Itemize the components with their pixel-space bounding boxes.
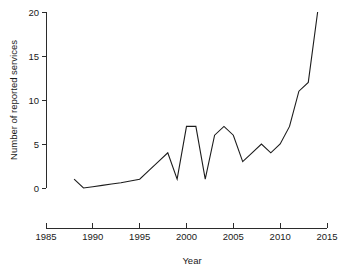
y-axis-tick-label: 15 [28,51,39,62]
line-chart-plot: 05101520 1985199019952000200520102015 Ye… [0,0,349,269]
x-axis-tick-label: 1990 [82,231,103,242]
x-axis-tick-label: 2010 [270,231,291,242]
y-axis-title: Number of reported services [8,40,19,160]
x-axis-tick-label: 2015 [316,231,337,242]
data-series-group [74,12,318,188]
x-axis: 1985199019952000200520102015 [35,223,337,242]
chart-container: 05101520 1985199019952000200520102015 Ye… [0,0,349,269]
x-axis-tick-label: 1995 [129,231,150,242]
y-axis: 05101520 [28,7,46,194]
x-axis-tick-label: 2000 [176,231,197,242]
y-axis-tick-label: 10 [28,95,39,106]
data-line [74,12,318,188]
y-axis-tick-label: 0 [34,183,39,194]
x-axis-tick-label: 2005 [223,231,244,242]
x-axis-tick-label: 1985 [35,231,56,242]
y-axis-tick-label: 20 [28,7,39,18]
x-axis-title: Year [182,255,201,266]
y-axis-tick-label: 5 [34,139,39,150]
